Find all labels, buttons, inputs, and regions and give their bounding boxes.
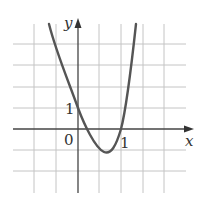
x-axis-label: x: [185, 132, 194, 150]
y-axis-label: y: [63, 14, 73, 32]
x-axis: [13, 126, 194, 133]
x-tick-label-1: 1: [120, 134, 130, 152]
origin-label: 0: [64, 131, 74, 149]
y-tick-label-1: 1: [65, 100, 75, 118]
grid: [13, 24, 186, 193]
y-axis-arrow-icon: [75, 18, 82, 28]
function-graph: y x 0 1 1: [0, 0, 206, 199]
